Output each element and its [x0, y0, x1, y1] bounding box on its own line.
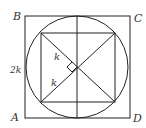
side-length-label: 2k — [9, 65, 21, 75]
vertex-label-a: A — [10, 111, 19, 124]
vertex-label-b: B — [12, 10, 21, 23]
geometry-diagram: B C A D 2k k k — [0, 0, 146, 128]
segment-label-k-lower: k — [51, 77, 57, 88]
vertex-label-d: D — [132, 112, 142, 125]
vertex-label-c: C — [134, 12, 143, 25]
segment-label-k-upper: k — [54, 51, 60, 62]
